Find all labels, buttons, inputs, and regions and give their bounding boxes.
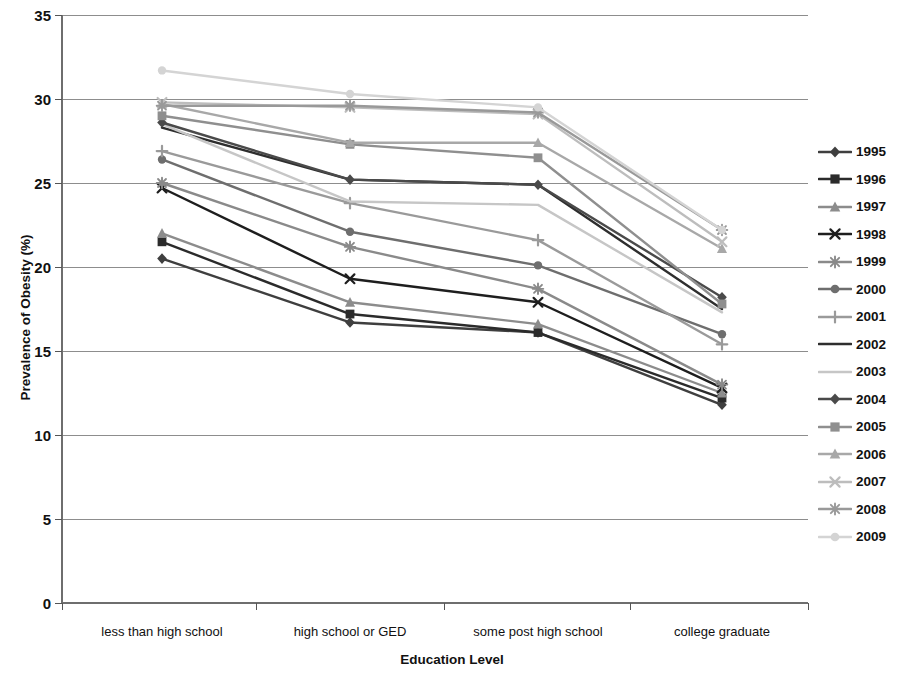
data-point-circle xyxy=(718,226,726,234)
x-tick-label: high school or GED xyxy=(294,624,407,639)
x-tick-label: less than high school xyxy=(101,624,222,639)
legend-label: 2003 xyxy=(856,365,886,379)
data-point-star xyxy=(717,379,728,390)
legend-item-2008[interactable]: 2008 xyxy=(818,496,904,524)
legend-label: 2004 xyxy=(856,393,886,407)
x-tick-mark xyxy=(256,603,257,610)
legend-item-2003[interactable]: 2003 xyxy=(818,358,904,386)
legend-swatch-square-icon xyxy=(818,171,852,187)
legend-item-2004[interactable]: 2004 xyxy=(818,386,904,414)
x-tick-mark xyxy=(808,603,809,610)
data-point-diamond xyxy=(830,394,840,405)
legend-label: 1997 xyxy=(856,200,886,214)
y-tick-mark xyxy=(55,183,62,184)
series-2003 xyxy=(162,124,722,312)
y-tick-mark xyxy=(55,99,62,100)
data-point-plus xyxy=(717,339,728,350)
x-tick-mark xyxy=(630,603,631,610)
legend-item-2000[interactable]: 2000 xyxy=(818,276,904,304)
legend-item-2001[interactable]: 2001 xyxy=(818,303,904,331)
series-1998 xyxy=(158,184,727,393)
x-tick-label: some post high school xyxy=(473,624,602,639)
legend-item-2009[interactable]: 2009 xyxy=(818,523,904,551)
legend-item-2005[interactable]: 2005 xyxy=(818,413,904,441)
y-tick-label: 10 xyxy=(17,428,51,443)
legend-item-2002[interactable]: 2002 xyxy=(818,331,904,359)
x-tick-label: college graduate xyxy=(674,624,770,639)
legend-swatch-diamond-icon xyxy=(818,144,852,160)
data-point-circle xyxy=(346,90,354,98)
legend-swatch-cross-icon xyxy=(818,474,852,490)
data-point-diamond xyxy=(830,146,840,157)
plot-area xyxy=(0,0,904,681)
y-tick-label: 5 xyxy=(17,512,51,527)
legend-item-1999[interactable]: 1999 xyxy=(818,248,904,276)
legend-item-2007[interactable]: 2007 xyxy=(818,468,904,496)
legend-label: 1999 xyxy=(856,255,886,269)
y-tick-label: 30 xyxy=(17,92,51,107)
legend-swatch-triangle-icon xyxy=(818,199,852,215)
data-point-square xyxy=(534,153,543,162)
data-point-square xyxy=(158,237,167,246)
y-tick-mark xyxy=(55,519,62,520)
data-point-square xyxy=(534,328,543,337)
legend: 1995199619971998199920002001200220032004… xyxy=(818,138,904,551)
series-1999 xyxy=(157,178,728,390)
legend-swatch-triangle-icon xyxy=(818,446,852,462)
y-tick-label: 35 xyxy=(17,8,51,23)
legend-swatch-circle-icon xyxy=(818,281,852,297)
legend-swatch-star-icon xyxy=(818,254,852,270)
legend-swatch-plus-icon xyxy=(818,309,852,325)
y-tick-mark xyxy=(55,603,62,604)
data-point-circle xyxy=(718,330,726,338)
legend-item-2006[interactable]: 2006 xyxy=(818,441,904,469)
y-tick-mark xyxy=(55,435,62,436)
data-point-circle xyxy=(534,103,542,111)
data-point-circle xyxy=(831,285,840,294)
y-tick-label: 0 xyxy=(17,596,51,611)
x-tick-mark xyxy=(444,603,445,610)
data-point-star xyxy=(345,242,356,253)
legend-swatch-none-icon xyxy=(818,364,852,380)
legend-label: 1996 xyxy=(856,173,886,187)
y-tick-label: 15 xyxy=(17,344,51,359)
legend-item-1998[interactable]: 1998 xyxy=(818,221,904,249)
legend-label: 2006 xyxy=(856,448,886,462)
data-point-diamond xyxy=(157,253,167,264)
data-point-circle xyxy=(831,532,840,541)
legend-swatch-square-icon xyxy=(818,419,852,435)
y-tick-mark xyxy=(55,15,62,16)
data-point-square xyxy=(830,175,839,184)
legend-label: 2008 xyxy=(856,503,886,517)
data-point-star xyxy=(829,504,840,515)
y-tick-label: 20 xyxy=(17,260,51,275)
data-point-star xyxy=(157,178,168,189)
legend-label: 1998 xyxy=(856,228,886,242)
legend-item-1997[interactable]: 1997 xyxy=(818,193,904,221)
data-point-circle xyxy=(158,66,166,74)
legend-item-1996[interactable]: 1996 xyxy=(818,166,904,194)
x-axis-title: Education Level xyxy=(0,652,904,667)
data-point-star xyxy=(829,256,840,267)
data-point-star xyxy=(157,100,168,111)
data-point-diamond xyxy=(345,317,355,328)
legend-label: 1995 xyxy=(856,145,886,159)
legend-label: 2001 xyxy=(856,310,886,324)
legend-label: 2009 xyxy=(856,530,886,544)
series-1995 xyxy=(157,253,727,410)
data-point-square xyxy=(830,422,839,431)
data-point-square xyxy=(718,300,727,309)
legend-swatch-none-icon xyxy=(818,336,852,352)
data-point-circle xyxy=(346,228,354,236)
legend-label: 2002 xyxy=(856,338,886,352)
legend-swatch-diamond-icon xyxy=(818,391,852,407)
data-point-plus xyxy=(829,311,840,322)
y-tick-mark xyxy=(55,267,62,268)
data-point-star xyxy=(345,100,356,111)
legend-label: 2000 xyxy=(856,283,886,297)
legend-item-1995[interactable]: 1995 xyxy=(818,138,904,166)
y-tick-label: 25 xyxy=(17,176,51,191)
data-point-square xyxy=(158,111,167,120)
data-point-star xyxy=(533,284,544,295)
series-layer xyxy=(157,66,728,410)
